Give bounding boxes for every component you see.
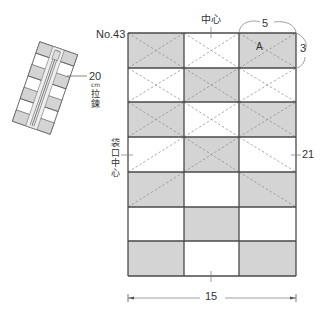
piece-a-label: A bbox=[256, 42, 263, 52]
pattern-diagram: No.43 中心 5 3 A 21 15 20 cm 拉鍊 袋口中心 bbox=[0, 0, 333, 323]
top-center-label: 中心 bbox=[201, 15, 221, 25]
grid-cell bbox=[184, 207, 239, 241]
total-width-label: 15 bbox=[205, 291, 217, 302]
opening-center-label: 袋口中心 bbox=[110, 138, 119, 178]
zipper-name-label: 拉鍊 bbox=[90, 89, 99, 109]
piece-height-label: 3 bbox=[300, 43, 306, 54]
grid-cell bbox=[184, 241, 239, 276]
zipper-illustration bbox=[12, 42, 77, 134]
total-height-label: 21 bbox=[302, 149, 314, 160]
grid-cell bbox=[239, 241, 296, 276]
piece-width-label: 5 bbox=[262, 18, 268, 29]
grid-cell bbox=[239, 207, 296, 241]
pattern-number: No.43 bbox=[96, 29, 125, 40]
patchwork-grid bbox=[128, 33, 296, 276]
width-arc bbox=[239, 21, 260, 33]
grid-cell bbox=[128, 241, 184, 276]
diagram-svg bbox=[0, 0, 333, 323]
grid-cell bbox=[128, 207, 184, 241]
zipper-unit-label: cm bbox=[91, 82, 100, 88]
grid-cell bbox=[184, 172, 239, 207]
